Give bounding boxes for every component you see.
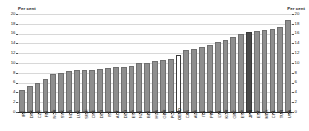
bar-slot bbox=[151, 14, 159, 112]
x-label-slot: OECD bbox=[175, 112, 183, 131]
x-label-slot: CAN bbox=[182, 112, 190, 131]
left-axis-title: Per cent bbox=[18, 7, 36, 11]
bar-slot bbox=[182, 14, 190, 112]
x-label-slot: AUT bbox=[112, 112, 120, 131]
tick-mark bbox=[292, 43, 294, 44]
bar-slot bbox=[261, 14, 269, 112]
x-label-slot: NLD bbox=[65, 112, 73, 131]
bar bbox=[262, 30, 268, 112]
y-tick-label-right: 18 bbox=[295, 22, 300, 26]
y-tick-label-right: 12 bbox=[295, 51, 300, 55]
x-label-slot: ESP bbox=[128, 112, 136, 131]
x-label-slot: NOR bbox=[49, 112, 57, 131]
x-label-slot: MEX bbox=[261, 112, 269, 131]
y-tick-label-left: 18 bbox=[11, 22, 16, 26]
x-label-slot: AUS bbox=[190, 112, 198, 131]
tick-mark bbox=[292, 73, 294, 74]
bar bbox=[168, 59, 174, 112]
tick-mark bbox=[292, 83, 294, 84]
bar bbox=[89, 70, 95, 112]
tick-mark bbox=[292, 92, 294, 93]
x-label-slot: SVK bbox=[57, 112, 65, 131]
bar bbox=[43, 79, 49, 112]
x-label-slot: CHE bbox=[88, 112, 96, 131]
x-label-slot: ISL bbox=[104, 112, 112, 131]
x-label-slot: TUR bbox=[276, 112, 284, 131]
bar bbox=[50, 74, 56, 112]
bar-slot bbox=[34, 14, 42, 112]
y-tick-label-right: 0 bbox=[295, 110, 297, 114]
y-tick-label-right: 8 bbox=[295, 71, 297, 75]
x-label-slot: BEL bbox=[143, 112, 151, 131]
x-label-slot: LVA bbox=[214, 112, 222, 131]
x-label-slot: USA bbox=[284, 112, 292, 131]
x-label-slot: DEU bbox=[120, 112, 128, 131]
y-tick-label-left: 2 bbox=[13, 100, 15, 104]
x-label-slot: ITA bbox=[198, 112, 206, 131]
bar-slot bbox=[104, 14, 112, 112]
y-tick-label-right: 14 bbox=[295, 41, 300, 45]
x-label-slot: PRT bbox=[206, 112, 214, 131]
bar bbox=[105, 68, 111, 112]
bar-slot bbox=[229, 14, 237, 112]
tick-mark bbox=[292, 63, 294, 64]
tick-mark bbox=[292, 102, 294, 103]
y-tick-label-right: 20 bbox=[295, 12, 300, 16]
bar-slot bbox=[159, 14, 167, 112]
bar-slot bbox=[253, 14, 261, 112]
x-label-slot: SWE bbox=[81, 112, 89, 131]
x-label-slot: CZE bbox=[34, 112, 42, 131]
bar-chart: Per cent Per cent 02468101214161820 0246… bbox=[0, 0, 309, 131]
bar bbox=[113, 67, 119, 112]
bar-slot bbox=[88, 14, 96, 112]
y-tick-label-left: 16 bbox=[11, 31, 16, 35]
x-axis-labels: IRLDNKCZEFINNORSVKNLDLUXSWECHEDEUISLAUTD… bbox=[18, 112, 292, 131]
bar bbox=[183, 50, 189, 112]
x-tick-label: USA bbox=[288, 110, 292, 118]
bar-slot bbox=[128, 14, 136, 112]
bar bbox=[97, 69, 103, 112]
bar-slot bbox=[143, 14, 151, 112]
tick-mark bbox=[292, 112, 294, 113]
x-label-slot: GBR bbox=[159, 112, 167, 131]
bar bbox=[270, 29, 276, 112]
x-label-slot: POL bbox=[167, 112, 175, 131]
bar-slot bbox=[73, 14, 81, 112]
bar bbox=[191, 49, 197, 112]
x-label-slot: CHL bbox=[269, 112, 277, 131]
bar-slot bbox=[96, 14, 104, 112]
bar bbox=[199, 47, 205, 112]
x-label-slot: NZL bbox=[135, 112, 143, 131]
bar-slot bbox=[120, 14, 128, 112]
bar bbox=[160, 60, 166, 112]
y-tick-label-left: 6 bbox=[13, 80, 15, 84]
bar bbox=[58, 73, 64, 112]
bar bbox=[230, 37, 236, 112]
y-tick-label-right: 10 bbox=[295, 61, 300, 65]
bar-slot bbox=[18, 14, 26, 112]
bar-slot bbox=[112, 14, 120, 112]
bar-slot bbox=[26, 14, 34, 112]
y-tick-label-left: 10 bbox=[11, 61, 16, 65]
bar bbox=[254, 31, 260, 112]
bar bbox=[82, 70, 88, 112]
tick-mark bbox=[292, 34, 294, 35]
bar-slot bbox=[65, 14, 73, 112]
bar bbox=[277, 27, 283, 112]
bar-slot bbox=[198, 14, 206, 112]
bar bbox=[19, 90, 25, 112]
bar bbox=[246, 32, 252, 112]
bar-slot bbox=[237, 14, 245, 112]
bar bbox=[176, 55, 182, 112]
bar bbox=[207, 45, 213, 112]
bar bbox=[121, 67, 127, 112]
bar bbox=[66, 71, 72, 112]
bar-slot bbox=[284, 14, 292, 112]
x-label-slot: JPN bbox=[245, 112, 253, 131]
y-tick-label-left: 20 bbox=[11, 12, 16, 16]
bar-series bbox=[18, 14, 292, 112]
bar-slot bbox=[49, 14, 57, 112]
bar-slot bbox=[245, 14, 253, 112]
bar-slot bbox=[175, 14, 183, 112]
y-tick-label-right: 6 bbox=[295, 80, 297, 84]
